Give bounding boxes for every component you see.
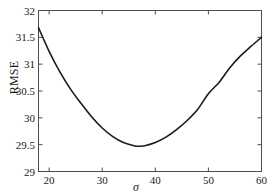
plot-area bbox=[0, 0, 272, 195]
y-tick-label: 31 bbox=[5, 59, 35, 69]
y-tick-label: 32 bbox=[5, 6, 35, 16]
x-axis-label: σ bbox=[0, 180, 272, 195]
figure-canvas: RMSE 2929.53030.53131.532 2030405060 σ bbox=[0, 0, 272, 195]
rmse-curve bbox=[39, 28, 262, 147]
y-tick-label: 30.5 bbox=[5, 86, 35, 96]
y-tick-label: 30 bbox=[5, 113, 35, 123]
y-axis-tick-labels: 2929.53030.53131.532 bbox=[0, 0, 35, 195]
y-tick-label: 29.5 bbox=[5, 140, 35, 150]
y-tick-label: 31.5 bbox=[5, 32, 35, 42]
